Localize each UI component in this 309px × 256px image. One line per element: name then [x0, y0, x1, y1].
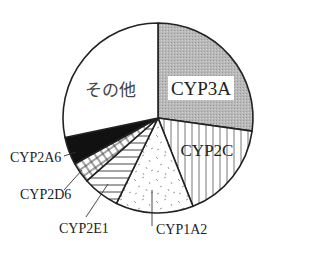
pie-slices: [63, 23, 253, 213]
label-cyp2a6: CYP2A6: [10, 150, 61, 165]
pie-chart: CYP3A CYP2C その他 CYP2A6 CYP2D6 CYP2E1 CYP…: [0, 0, 309, 256]
label-cyp2c: CYP2C: [181, 141, 234, 160]
label-other: その他: [85, 80, 136, 100]
label-cyp2e1: CYP2E1: [59, 221, 109, 236]
label-cyp3a: CYP3A: [171, 78, 231, 99]
label-cyp2d6: CYP2D6: [20, 187, 71, 202]
label-cyp1a2: CYP1A2: [156, 222, 207, 237]
